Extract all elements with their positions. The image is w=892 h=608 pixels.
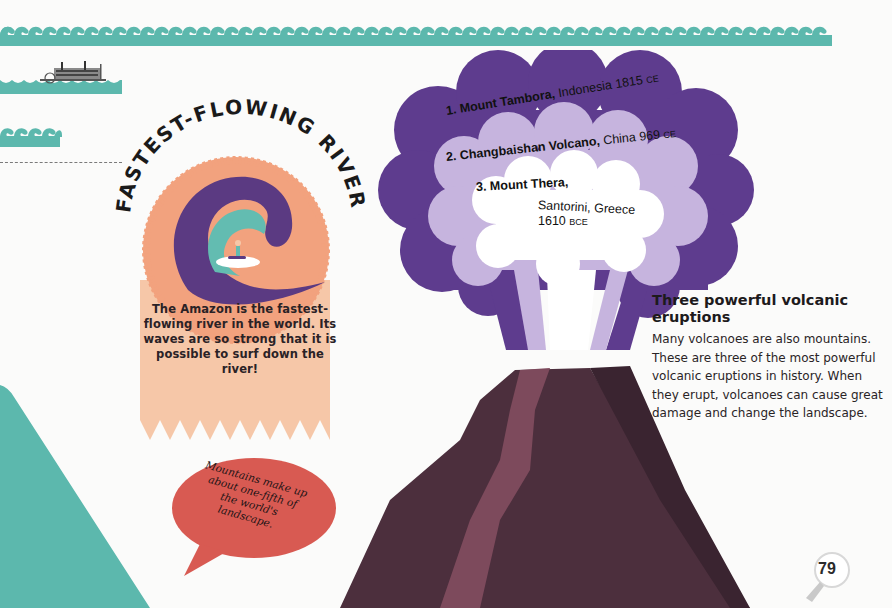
river-badge-title: FASTEST-FLOWING RIVER [90,60,380,260]
eruption-item-3-year: 1610 BCE [538,214,588,228]
page-number: 79 [818,560,836,578]
small-wave-strip [0,125,64,147]
eruptions-heading: Three powerful volcanic eruptions [652,292,892,326]
svg-text:FASTEST-FLOWING RIVER: FASTEST-FLOWING RIVER [111,95,370,214]
page-number-magnifier [800,548,860,608]
river-description: The Amazon is the fastest-flowing river … [142,302,338,377]
top-wave-border [0,22,832,46]
eruptions-body: Many volcanoes are also mountains. These… [652,330,892,423]
